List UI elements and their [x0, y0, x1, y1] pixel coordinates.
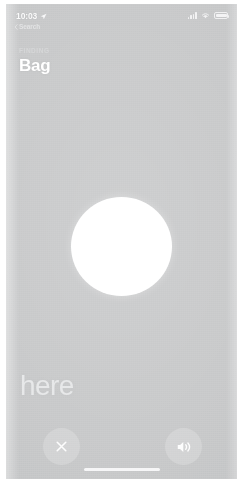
chevron-left-icon: [14, 24, 18, 30]
finding-eyebrow-label: FINDING: [19, 47, 50, 54]
wifi-icon: [201, 12, 210, 19]
battery-fill: [216, 14, 227, 17]
close-x-icon: [55, 440, 68, 453]
home-indicator[interactable]: [84, 468, 160, 471]
battery-icon: [214, 12, 228, 19]
status-time: 10:03: [16, 11, 37, 21]
finding-heading: FINDING Bag: [19, 47, 50, 75]
page-title: Bag: [19, 57, 50, 75]
cellular-bars-icon: [188, 12, 197, 19]
location-arrow-icon: [40, 13, 47, 20]
back-to-search-button[interactable]: Search: [14, 23, 40, 30]
play-sound-button[interactable]: [165, 428, 202, 465]
status-bar: 10:03 Search: [6, 4, 237, 34]
status-time-group: 10:03: [16, 11, 47, 21]
proximity-text: here: [20, 372, 74, 400]
close-button[interactable]: [43, 428, 80, 465]
speaker-wave-icon: [176, 440, 192, 454]
precision-finding-circle: [71, 197, 172, 296]
status-indicators: [188, 12, 228, 19]
back-label: Search: [19, 23, 40, 30]
phone-screen: 10:03 Search FINDING: [6, 4, 237, 479]
